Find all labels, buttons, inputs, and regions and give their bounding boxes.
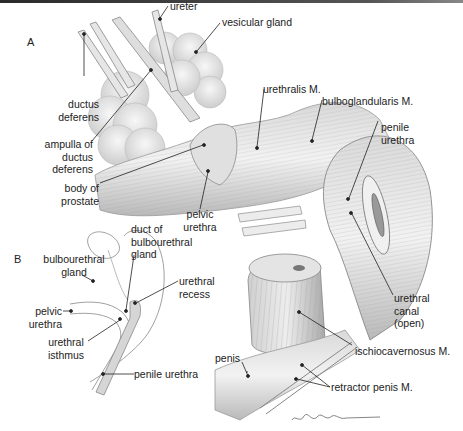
label-urethralis-m: urethralis M. [263, 83, 321, 96]
label-penile-urethra-b: penile urethra [134, 368, 198, 381]
label-penis: penis [215, 352, 240, 365]
label-bulbourethral-gland: bulbourethral gland [36, 253, 112, 278]
label-penile-urethra-a: penile urethra [381, 121, 414, 146]
label-vesicular-gland: vesicular gland [222, 16, 292, 29]
panel-label-a: A [27, 36, 34, 48]
label-ischiocavernosus-m: ischiocavernosus M. [355, 345, 450, 358]
label-bulboglandularis-m: bulboglandularis M. [322, 95, 413, 108]
label-ureter: ureter [170, 0, 197, 13]
panel-label-b: B [14, 253, 21, 265]
label-duct-of-bulbourethral-gland: duct of bulbourethral gland [131, 223, 192, 261]
label-pelvic-urethra-b: pelvic urethra [20, 305, 62, 330]
artist-signature [292, 414, 380, 420]
label-urethral-isthmus: urethral isthmus [44, 336, 88, 361]
label-ductus-deferens: ductus deferens [44, 98, 99, 123]
label-retractor-penis-m: retractor penis M. [331, 381, 413, 394]
label-urethral-recess: urethral recess [179, 275, 215, 300]
label-urethral-canal-open: urethral canal (open) [394, 292, 430, 330]
label-ampulla-ductus-deferens: ampulla of ductus deferens [38, 138, 93, 176]
anatomy-illustration [0, 0, 463, 431]
cut-tubes-shape [238, 206, 306, 236]
label-body-of-prostate: body of prostate [44, 182, 99, 207]
